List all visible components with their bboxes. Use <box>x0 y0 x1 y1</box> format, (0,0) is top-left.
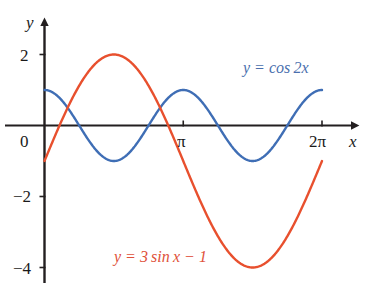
y-tick-label-minus-2: −2 <box>13 188 31 205</box>
y-axis-label: y <box>26 14 34 31</box>
y-tick-label-2: 2 <box>20 47 29 64</box>
curve-label-cos-2x: y = cos 2x <box>243 60 309 76</box>
tick-marks-group <box>40 55 323 268</box>
curve-label-3-sin-x-minus-1: y = 3 sin x − 1 <box>114 249 207 265</box>
y-tick-label-minus-4: −4 <box>13 260 31 277</box>
curve-3-sin-x-minus-1 <box>45 55 323 268</box>
x-tick-label-pi: π <box>177 133 186 150</box>
y-tick-label-0: 0 <box>20 133 29 150</box>
x-tick-label-2pi: 2π <box>309 133 326 150</box>
graph-figure: 2 0 −2 −4 π 2π y x y = cos 2x y = 3 sin … <box>0 0 367 290</box>
x-axis-label: x <box>349 133 357 150</box>
